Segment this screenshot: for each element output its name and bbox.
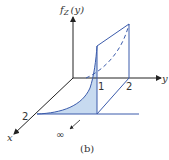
top-edge-line	[97, 24, 129, 46]
y-axis-label: y	[161, 73, 168, 84]
vertical-axis-label: fZ(y)	[59, 4, 84, 17]
y-tick-1: 1	[98, 81, 104, 92]
infinity-label: ∞	[56, 129, 64, 140]
x-axis-label: x	[7, 132, 13, 143]
figure-caption: (b)	[80, 143, 94, 154]
infinity-arrow	[70, 120, 80, 129]
back-curve-dashed	[86, 24, 129, 78]
x-axis	[14, 78, 73, 134]
diagram-canvas: fZ(y) y x 1 2 2 ∞ (b)	[0, 0, 169, 160]
y-tick-2: 2	[126, 81, 132, 92]
x-tick-2: 2	[22, 111, 28, 122]
